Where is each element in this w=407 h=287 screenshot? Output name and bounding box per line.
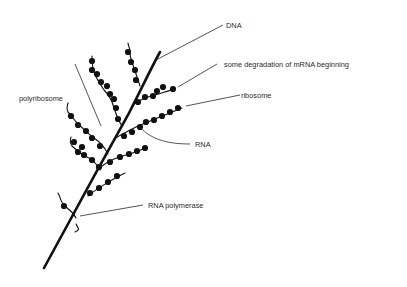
rna-polymerase-leader — [80, 205, 143, 216]
degradation-leader — [178, 64, 217, 87]
label-polyribosome: polyribosome — [19, 94, 63, 103]
transcript-7 — [67, 103, 108, 154]
label-rna: RNA — [195, 140, 211, 149]
transcript-9 — [125, 43, 140, 86]
label-degradation: some degradation of mRNA beginning — [224, 60, 349, 69]
transcript-1 — [58, 193, 76, 218]
label-ribosome: ribosome — [241, 91, 271, 100]
label-dna: DNA — [226, 21, 242, 30]
rna-polymerase-hook — [75, 224, 79, 232]
transcript-8 — [89, 56, 122, 126]
transcript-5 — [134, 84, 176, 105]
rna-leader — [141, 128, 190, 144]
dna-leader — [156, 25, 223, 60]
ribosome-leader — [186, 95, 240, 106]
transcript-6 — [70, 137, 102, 170]
label-rna-polymerase: RNA polymerase — [148, 201, 203, 210]
polyribosome-diagram: DNA some degradation of mRNA beginning r… — [0, 0, 407, 287]
